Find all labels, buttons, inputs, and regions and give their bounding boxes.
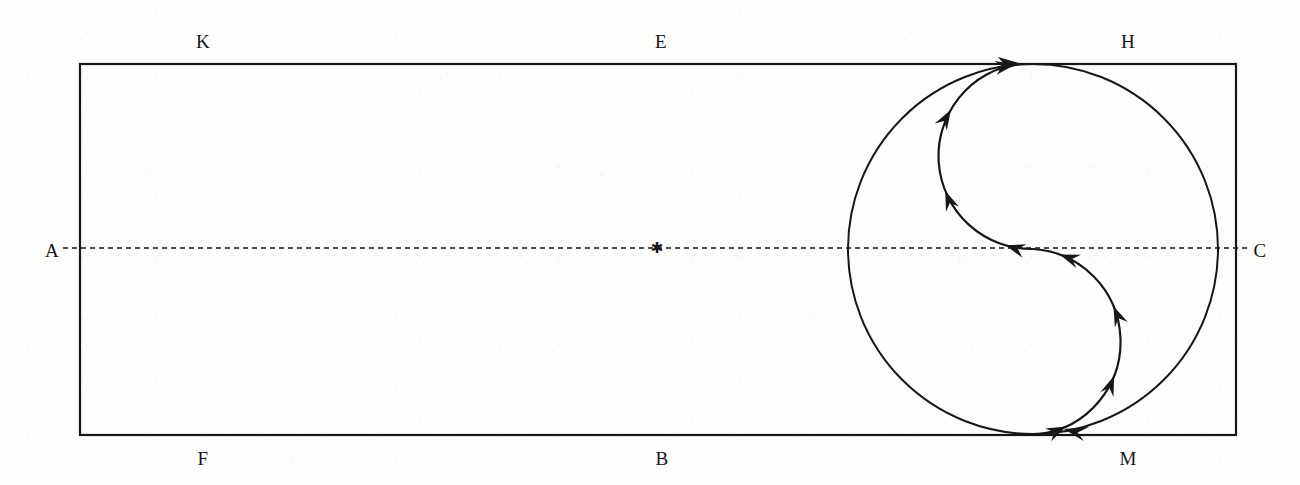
direction-arrowhead	[935, 106, 957, 130]
s-curve-upper-arc	[939, 64, 1033, 249]
vertex-label-c: C	[1254, 241, 1267, 260]
s-curve-lower-arc	[1033, 249, 1121, 434]
vertex-label-e: E	[655, 32, 667, 51]
direction-arrowhead	[939, 188, 959, 212]
vertex-label-k: K	[196, 32, 210, 51]
diagram-vector-layer: ✱	[0, 0, 1300, 485]
vertex-label-b: B	[656, 449, 669, 468]
svg-text:✱: ✱	[651, 239, 664, 257]
vertex-label-f: F	[198, 449, 209, 468]
asterisk-marker: ✱	[651, 239, 664, 257]
vertex-label-m: M	[1119, 449, 1136, 468]
direction-arrowhead	[1107, 304, 1128, 328]
direction-arrowhead	[1100, 373, 1120, 397]
vertex-label-h: H	[1121, 32, 1135, 51]
diagram-canvas: ✱ K E H A C F B M	[0, 0, 1300, 485]
direction-arrowhead	[1057, 248, 1081, 268]
vertex-label-a: A	[45, 241, 59, 260]
